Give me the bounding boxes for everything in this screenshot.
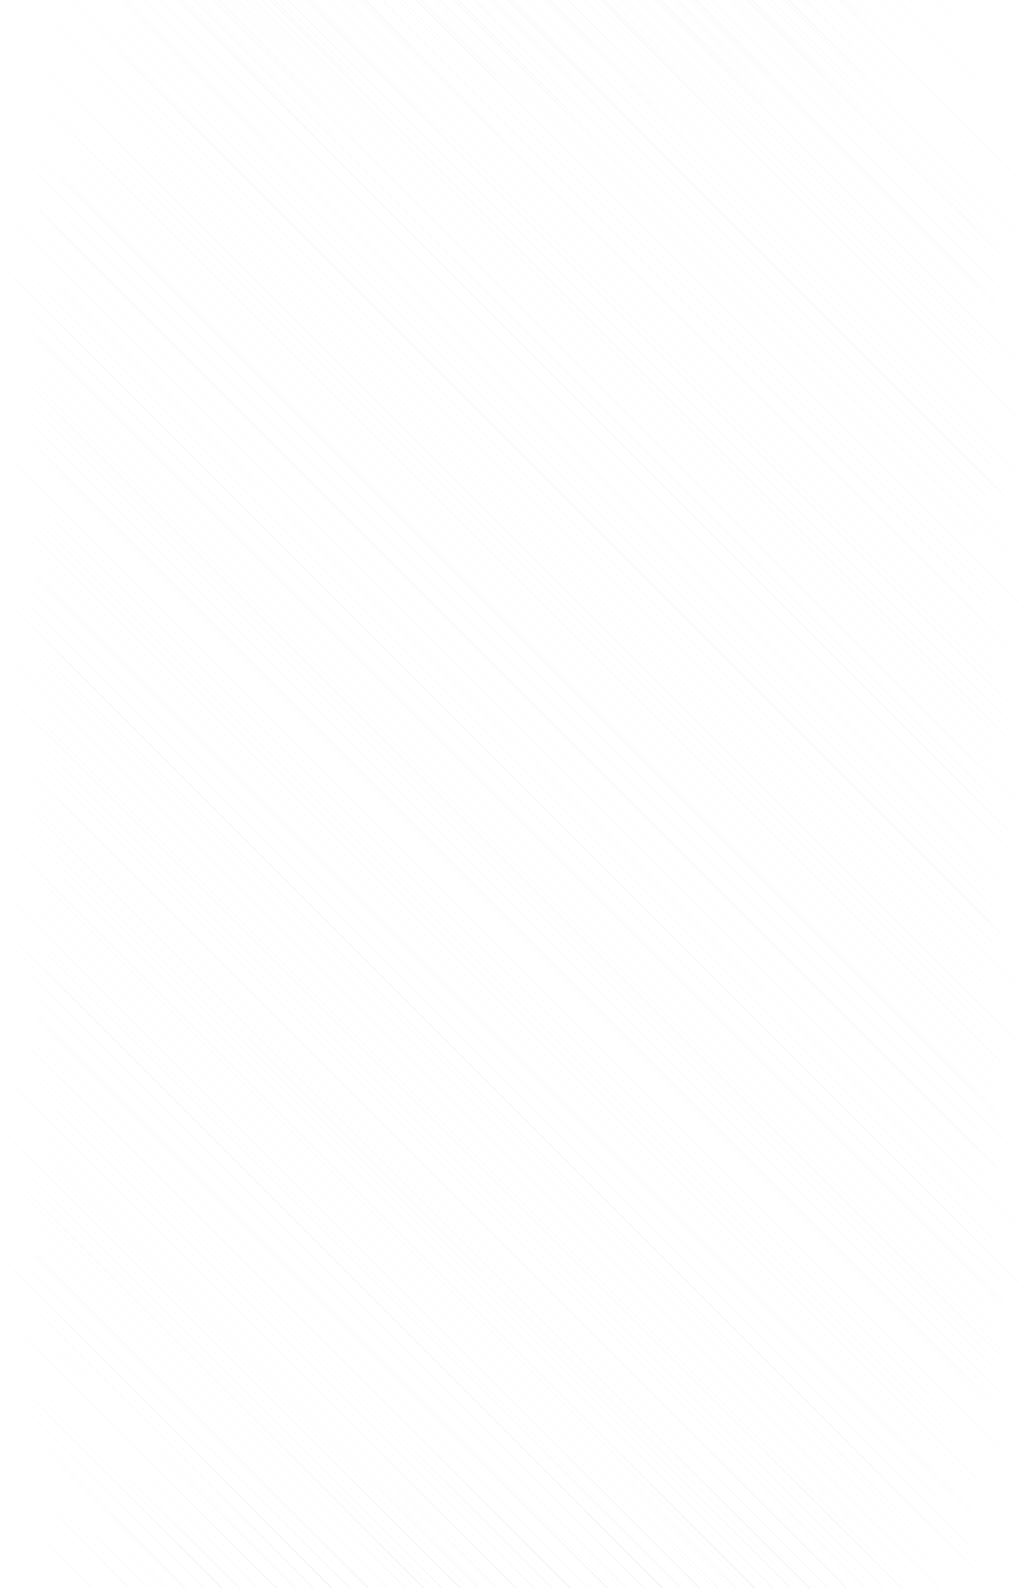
page-canvas bbox=[0, 0, 1033, 1588]
content-area bbox=[0, 0, 1033, 1588]
